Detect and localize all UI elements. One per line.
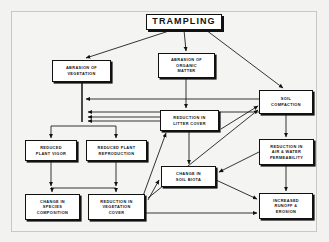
node-reduced-plant-reproduction[interactable]: REDUCED PLANT REPRODUCTION: [86, 140, 147, 161]
edge-trampling-abrasion-organic: [184, 30, 186, 51]
node-reduction-in-litter-cover-label: REDUCTION IN LITTER COVER: [172, 115, 207, 126]
edge-litter-compaction: [221, 106, 258, 129]
node-reduction-in-vegetation-cover-label: REDUCTION IN VEGETATION COVER: [99, 199, 133, 216]
node-change-in-soil-biota-label: CHANGE IN SOIL BIOTA: [175, 171, 202, 182]
edge-permeability-soilbiota: [219, 152, 259, 172]
node-reduction-in-air-and-water-permeability-label: REDUCTION IN AIR & WATER PERMEABILITY: [269, 144, 304, 161]
node-reduction-in-air-and-water-permeability[interactable]: REDUCTION IN AIR & WATER PERMEABILITY: [259, 139, 314, 165]
node-reduction-in-vegetation-cover[interactable]: REDUCTION IN VEGETATION COVER: [88, 194, 145, 220]
node-abrasion-of-organic-matter[interactable]: ABRASION OF ORGANIC MATTER: [158, 53, 215, 78]
edge-bus-reduced-reproduction: [82, 126, 116, 138]
node-change-in-soil-biota[interactable]: CHANGE IN SOIL BIOTA: [161, 166, 216, 187]
diagram-canvas: TRAMPLING ABRASION OF VEGETATION ABRASIO…: [0, 0, 329, 242]
edge-bus-reduced-vigor: [51, 126, 82, 138]
node-reduced-plant-vigor[interactable]: REDUCED PLANT VIGOR: [25, 140, 77, 161]
node-abrasion-of-vegetation-label: ABRASION OF VEGETATION: [65, 65, 98, 76]
node-change-in-species-composition-label: CHANGE IN SPECIES COMPOSITION: [36, 199, 70, 216]
node-trampling[interactable]: TRAMPLING: [146, 14, 222, 30]
node-increased-runoff-and-erosion[interactable]: INCREASED RUNOFF & EROSION: [259, 193, 313, 219]
node-soil-compaction[interactable]: SOIL COMPACTION: [259, 90, 313, 114]
node-reduced-plant-vigor-label: REDUCED PLANT VIGOR: [35, 145, 67, 156]
node-reduced-plant-reproduction-label: REDUCED PLANT REPRODUCTION: [97, 145, 137, 156]
edge-trampling-soil-compaction: [206, 30, 283, 88]
node-abrasion-of-vegetation[interactable]: ABRASION OF VEGETATION: [52, 60, 111, 82]
node-trampling-label: TRAMPLING: [151, 15, 216, 28]
node-change-in-species-composition[interactable]: CHANGE IN SPECIES COMPOSITION: [25, 194, 80, 220]
edge-soilbiota-runoff: [216, 180, 257, 199]
node-increased-runoff-and-erosion-label: INCREASED RUNOFF & EROSION: [272, 198, 300, 215]
node-soil-compaction-label: SOIL COMPACTION: [270, 96, 302, 107]
node-reduction-in-litter-cover[interactable]: REDUCTION IN LITTER COVER: [160, 110, 219, 131]
node-abrasion-of-organic-matter-label: ABRASION OF ORGANIC MATTER: [170, 57, 203, 74]
